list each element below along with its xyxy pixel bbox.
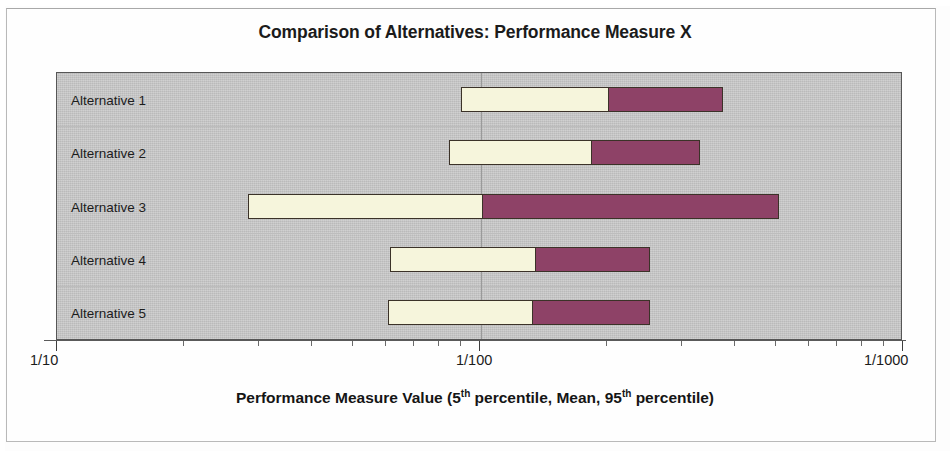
bar-alternative-4[interactable] [390, 247, 650, 272]
category-label-alternative-2: Alternative 2 [71, 146, 146, 161]
x-axis-major-tick [479, 341, 480, 351]
page-edge-top [0, 0, 950, 6]
x-axis-title-sup-5th: th [461, 388, 470, 399]
x-axis-minor-tick [775, 341, 776, 346]
bar-alternative-1[interactable] [461, 87, 723, 112]
gridline-horizontal [57, 233, 901, 234]
bar-segment-p5-to-mean [248, 194, 484, 219]
x-tick-label-1-10: 1/10 [30, 352, 58, 368]
screenshot-page: Comparison of Alternatives: Performance … [0, 0, 950, 451]
x-axis-minor-tick [808, 341, 809, 346]
x-axis [56, 340, 902, 352]
x-tick-label-1-1000: 1/1000 [864, 352, 908, 368]
bar-segment-mean-to-p95 [609, 87, 723, 112]
x-axis-minor-tick [861, 341, 862, 346]
x-axis-minor-tick [460, 341, 461, 346]
x-axis-major-tick [56, 341, 57, 351]
category-label-alternative-4: Alternative 4 [71, 253, 146, 268]
x-axis-line [44, 340, 906, 341]
category-label-alternative-3: Alternative 3 [71, 200, 146, 215]
x-axis-minor-tick [385, 341, 386, 346]
bar-segment-p5-to-mean [449, 140, 592, 165]
bar-segment-mean-to-p95 [536, 247, 650, 272]
bar-segment-mean-to-p95 [533, 300, 650, 325]
x-axis-minor-tick [258, 341, 259, 346]
gridline-horizontal [57, 286, 901, 287]
bar-alternative-2[interactable] [449, 140, 700, 165]
bar-segment-p5-to-mean [388, 300, 533, 325]
category-label-alternative-1: Alternative 1 [71, 93, 146, 108]
gridline-horizontal [57, 179, 901, 180]
chart-title: Comparison of Alternatives: Performance … [0, 22, 950, 43]
x-axis-minor-tick [734, 341, 735, 346]
x-axis-minor-tick [438, 341, 439, 346]
x-axis-minor-tick [836, 341, 837, 346]
bar-segment-p5-to-mean [390, 247, 536, 272]
x-axis-minor-tick [413, 341, 414, 346]
x-axis-minor-tick [311, 341, 312, 346]
x-axis-title-pre: Performance Measure Value (5 [236, 389, 461, 406]
bar-alternative-3[interactable] [248, 194, 779, 219]
x-axis-minor-tick [883, 341, 884, 346]
category-label-alternative-5: Alternative 5 [71, 306, 146, 321]
x-axis-minor-tick [183, 341, 184, 346]
bar-segment-p5-to-mean [461, 87, 609, 112]
x-axis-title-sup-95th: th [622, 388, 631, 399]
x-axis-minor-tick [606, 341, 607, 346]
x-axis-minor-tick [681, 341, 682, 346]
gridline-horizontal [57, 126, 901, 127]
page-edge-left [0, 0, 5, 451]
x-axis-major-tick [902, 341, 903, 351]
plot-area: Alternative 1 Alternative 2 Alternative … [56, 72, 902, 340]
x-tick-label-1-100: 1/100 [456, 352, 492, 368]
bar-alternative-5[interactable] [388, 300, 650, 325]
bar-segment-mean-to-p95 [592, 140, 700, 165]
x-axis-minor-tick [352, 341, 353, 346]
x-axis-title-post: percentile) [631, 389, 714, 406]
x-axis-title: Performance Measure Value (5th percentil… [0, 389, 950, 407]
x-axis-title-mid: percentile, Mean, 95 [470, 389, 622, 406]
bar-segment-mean-to-p95 [483, 194, 779, 219]
